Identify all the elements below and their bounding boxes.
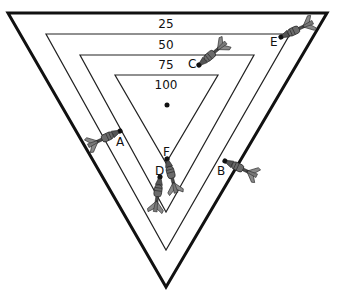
dartboard: 25 50 75 100 A B C D E <box>0 0 338 301</box>
dart-label-c: C <box>188 57 196 71</box>
dart-d: D <box>147 164 168 214</box>
dart-label-a: A <box>116 135 125 149</box>
dart-label-b: B <box>217 164 225 178</box>
score-label-50: 50 <box>158 38 173 52</box>
dart-b: B <box>217 153 261 184</box>
score-label-100: 100 <box>155 78 178 92</box>
dart-label-e: E <box>270 35 278 49</box>
dart-label-f: F <box>163 145 170 159</box>
score-label-75: 75 <box>158 58 173 72</box>
dart-c: C <box>188 36 232 73</box>
center-dot <box>165 103 170 108</box>
dart-label-d: D <box>155 164 164 178</box>
score-label-25: 25 <box>158 17 173 31</box>
